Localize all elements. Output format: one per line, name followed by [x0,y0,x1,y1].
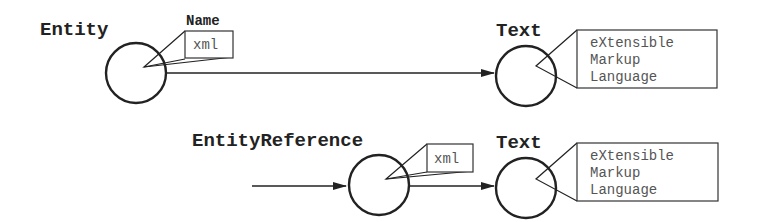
text-value-callout-2: eXtensible Markup Language [536,143,718,201]
text-circle-1 [496,46,556,106]
name-value-text: xml [193,37,218,53]
text-line-2-3: Language [590,182,657,198]
entity-reference-node: EntityReference [192,130,409,215]
er-value-text: xml [434,151,459,167]
text-line-1-2: Markup [590,52,640,68]
entity-label: Entity [40,19,109,41]
text-value-callout-1: eXtensible Markup Language [536,30,717,88]
text-node-1: Text [496,20,556,106]
text-circle-2 [496,158,556,218]
entity-node: Entity [40,19,166,103]
text-line-1-1: eXtensible [590,35,674,51]
entity-circle [106,43,166,103]
text-line-2-2: Markup [590,165,640,181]
text-node-2: Text [496,132,556,218]
text-label-1: Text [496,20,542,42]
name-attr-label: Name [186,13,220,29]
entity-reference-circle [349,155,409,215]
text-label-2: Text [496,132,542,154]
text-line-1-3: Language [590,69,657,85]
text-line-2-1: eXtensible [590,148,674,164]
diagram-canvas: Entity Name xml Text eXtensible Markup L… [0,0,758,222]
entity-reference-label: EntityReference [192,130,363,152]
